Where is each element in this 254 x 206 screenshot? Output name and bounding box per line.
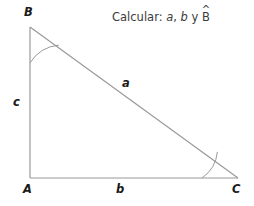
prompt-lead: Calcular:: [112, 10, 166, 24]
prompt-item-b: b: [181, 10, 188, 24]
circumflex-accent-icon: ^: [202, 5, 210, 15]
prompt-conjunction: y: [188, 10, 202, 24]
side-label-b: b: [116, 184, 124, 196]
angle-arc-B: [30, 45, 59, 63]
side-label-c: c: [13, 97, 20, 109]
triangle-figure: [0, 0, 254, 206]
angle-arc-C: [202, 152, 217, 178]
prompt-item-angle-b: ^B: [202, 12, 210, 24]
side-label-a: a: [122, 78, 130, 90]
vertex-label-b: B: [24, 7, 33, 19]
prompt-separator: ,: [173, 10, 180, 24]
vertex-label-c: C: [232, 184, 240, 196]
vertex-label-a: A: [23, 184, 32, 196]
side-a-line: [30, 27, 238, 178]
prompt-text: Calcular: a, b y ^B: [112, 12, 210, 24]
diagram-canvas: Calcular: a, b y ^B B A C c b a: [0, 0, 254, 206]
